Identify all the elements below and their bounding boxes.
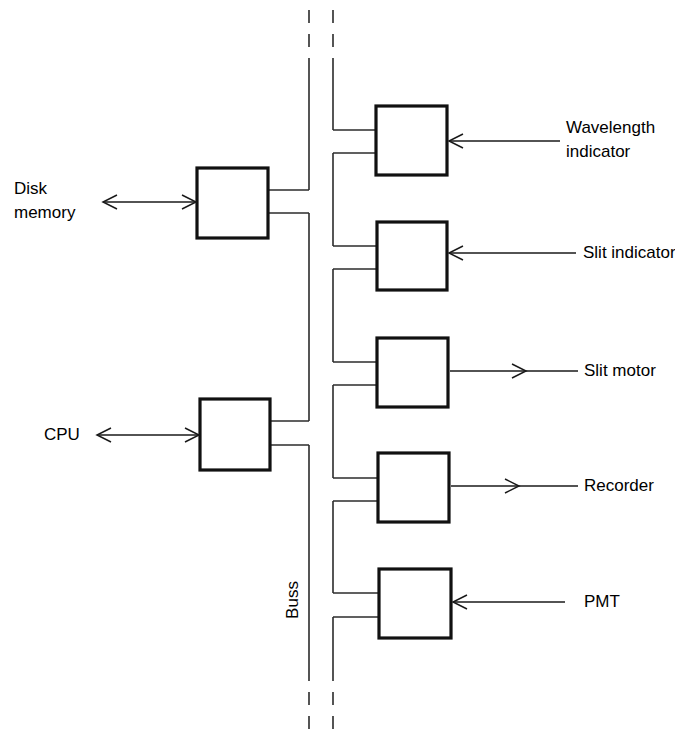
unit-cpu: CPU (44, 399, 270, 470)
unit-pmt: PMT (379, 569, 620, 638)
unit-slit-indicator: Slit indicator (377, 222, 675, 290)
buss-label-group: Buss (283, 581, 302, 619)
diagram-canvas: Buss Disk memory CPU Wavelength indica (0, 0, 675, 747)
recorder-label-line1: Recorder (584, 476, 654, 495)
buss-lines (268, 10, 380, 740)
disk-memory-label-line2: memory (14, 203, 76, 222)
disk-memory-box (197, 168, 268, 238)
cpu-label-line1: CPU (44, 425, 80, 444)
unit-disk-memory: Disk memory (14, 168, 268, 238)
slit-indicator-box (377, 222, 447, 290)
unit-slit-motor: Slit motor (377, 338, 656, 407)
unit-recorder: Recorder (378, 453, 654, 522)
slit-motor-box (377, 338, 448, 407)
block-diagram: Buss Disk memory CPU Wavelength indica (0, 0, 675, 747)
recorder-box (378, 453, 449, 522)
buss-label: Buss (283, 581, 302, 619)
wavelength-indicator-label-line2: indicator (566, 142, 631, 161)
slit-indicator-label-line1: Slit indicator (583, 243, 675, 262)
wavelength-indicator-label-line1: Wavelength (566, 118, 655, 137)
unit-wavelength-indicator: Wavelength indicator (376, 106, 655, 175)
pmt-label-line1: PMT (584, 592, 620, 611)
disk-memory-label-line1: Disk (14, 179, 48, 198)
cpu-box (200, 399, 270, 470)
wavelength-indicator-box (376, 106, 447, 175)
slit-motor-label-line1: Slit motor (584, 361, 656, 380)
pmt-box (379, 569, 451, 638)
